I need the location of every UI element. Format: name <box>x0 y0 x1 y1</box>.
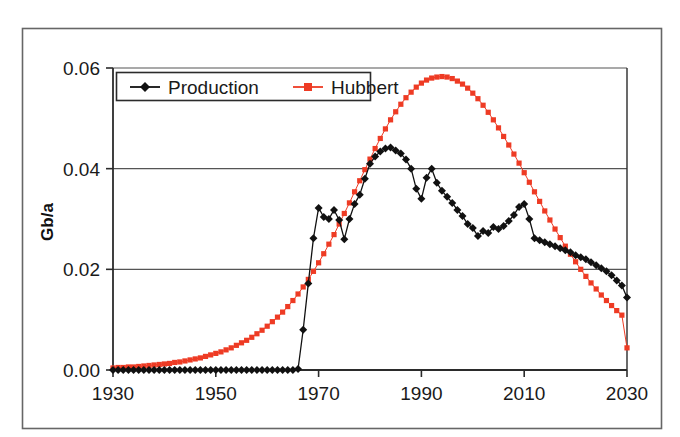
data-point-marker <box>599 292 604 297</box>
data-point-marker <box>326 242 331 247</box>
data-point-marker <box>455 78 460 83</box>
data-point-marker <box>429 75 434 80</box>
y-axis-title: Gb/a <box>38 203 57 241</box>
data-point-marker <box>162 361 167 366</box>
data-point-marker <box>331 232 336 237</box>
data-point-marker <box>558 235 563 240</box>
data-point-marker <box>511 151 516 156</box>
data-point-marker <box>470 91 475 96</box>
data-point-marker <box>383 126 388 131</box>
data-point-marker <box>177 359 182 364</box>
y-tick-label: 0.06 <box>63 58 100 79</box>
data-point-marker <box>578 267 583 272</box>
data-point-marker <box>516 161 521 166</box>
data-point-marker <box>419 81 424 86</box>
data-point-marker <box>373 146 378 151</box>
data-point-marker <box>537 199 542 204</box>
figure-root: 0.000.020.040.06 19301950197019902010203… <box>0 0 680 437</box>
data-point-marker <box>465 86 470 91</box>
data-point-marker <box>403 95 408 100</box>
data-point-marker <box>198 355 203 360</box>
data-point-marker <box>527 180 532 185</box>
data-point-marker <box>265 324 270 329</box>
hubbert-production-chart: 0.000.020.040.06 19301950197019902010203… <box>0 0 680 437</box>
data-point-marker <box>259 328 264 333</box>
x-tick-label: 2030 <box>606 383 648 404</box>
data-point-marker <box>223 347 228 352</box>
data-point-marker <box>552 226 557 231</box>
y-tick-label: 0.04 <box>63 159 100 180</box>
data-point-marker <box>234 343 239 348</box>
data-point-marker <box>496 125 501 130</box>
x-tick-label: 2010 <box>503 383 545 404</box>
data-point-marker <box>270 319 275 324</box>
data-point-marker <box>604 298 609 303</box>
data-point-marker <box>229 345 234 350</box>
data-point-marker <box>501 134 506 139</box>
data-point-marker <box>491 117 496 122</box>
data-point-marker <box>609 303 614 308</box>
data-point-marker <box>193 356 198 361</box>
data-point-marker <box>316 260 321 265</box>
data-point-marker <box>393 109 398 114</box>
data-point-marker <box>450 76 455 81</box>
data-point-marker <box>167 361 172 366</box>
data-point-marker <box>254 331 259 336</box>
data-point-marker <box>213 351 218 356</box>
data-point-marker <box>304 83 312 91</box>
data-point-marker <box>295 291 300 296</box>
data-point-marker <box>378 136 383 141</box>
x-tick-label: 1970 <box>297 383 339 404</box>
data-point-marker <box>208 352 213 357</box>
data-point-marker <box>280 310 285 315</box>
data-point-marker <box>480 103 485 108</box>
data-point-marker <box>239 340 244 345</box>
x-tick-label: 1930 <box>92 383 134 404</box>
legend-label: Hubbert <box>331 77 399 98</box>
data-point-marker <box>321 251 326 256</box>
data-point-marker <box>311 269 316 274</box>
legend[interactable]: ProductionHubbert <box>117 73 400 101</box>
data-point-marker <box>594 286 599 291</box>
data-point-marker <box>475 96 480 101</box>
data-point-marker <box>614 308 619 313</box>
x-tick-label: 1950 <box>195 383 237 404</box>
data-point-marker <box>352 189 357 194</box>
data-point-marker <box>409 90 414 95</box>
data-point-marker <box>388 117 393 122</box>
data-point-marker <box>218 349 223 354</box>
data-point-marker <box>398 102 403 107</box>
data-point-marker <box>172 360 177 365</box>
data-point-marker <box>434 74 439 79</box>
x-tick-label: 1990 <box>400 383 442 404</box>
data-point-marker <box>290 298 295 303</box>
data-point-marker <box>188 357 193 362</box>
data-point-marker <box>619 313 624 318</box>
data-point-marker <box>522 170 527 175</box>
data-point-marker <box>424 77 429 82</box>
data-point-marker <box>573 259 578 264</box>
data-point-marker <box>624 345 629 350</box>
data-point-marker <box>588 280 593 285</box>
data-point-marker <box>486 110 491 115</box>
data-point-marker <box>460 82 465 87</box>
data-point-marker <box>203 354 208 359</box>
data-point-marker <box>244 338 249 343</box>
data-point-marker <box>439 74 444 79</box>
data-point-marker <box>532 189 537 194</box>
data-point-marker <box>285 304 290 309</box>
data-point-marker <box>249 335 254 340</box>
data-point-marker <box>414 85 419 90</box>
data-point-marker <box>342 211 347 216</box>
y-tick-label: 0.00 <box>63 360 100 381</box>
data-point-marker <box>506 142 511 147</box>
data-point-marker <box>301 284 306 289</box>
data-point-marker <box>182 358 187 363</box>
data-point-marker <box>542 208 547 213</box>
data-point-marker <box>275 315 280 320</box>
y-tick-label: 0.02 <box>63 259 100 280</box>
data-point-marker <box>547 217 552 222</box>
data-point-marker <box>347 200 352 205</box>
data-point-marker <box>583 274 588 279</box>
data-point-marker <box>445 74 450 79</box>
